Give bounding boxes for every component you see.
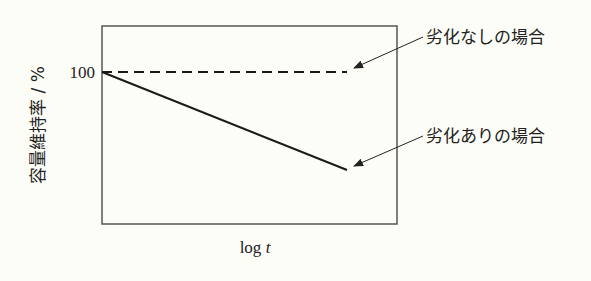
y-axis-label: 容量維持率 / % xyxy=(28,66,48,184)
chart: 100 容量維持率 / % log t 劣化なしの場合 劣化ありの場合 xyxy=(0,0,591,281)
annotation-label-no-degradation: 劣化なしの場合 xyxy=(426,27,545,47)
annotation-arrow-degradation xyxy=(354,136,423,166)
series-degradation-line xyxy=(102,72,347,170)
x-axis-label-var: t xyxy=(266,238,272,257)
annotation-arrow-no-degradation xyxy=(354,37,423,68)
x-axis-label-base: log xyxy=(240,238,266,257)
x-axis-label: log t xyxy=(240,238,272,257)
plot-frame xyxy=(102,26,397,224)
annotation-label-degradation: 劣化ありの場合 xyxy=(426,126,545,146)
y-tick-100: 100 xyxy=(70,63,96,82)
